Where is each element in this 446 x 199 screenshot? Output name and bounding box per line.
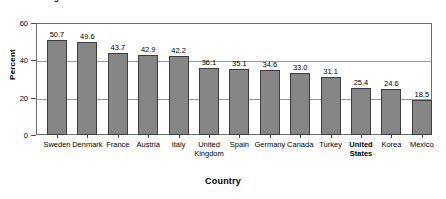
x-axis-title: Country bbox=[0, 176, 446, 186]
bar[interactable]: 24.6 bbox=[376, 23, 406, 135]
bar-value-label: 24.6 bbox=[376, 79, 406, 88]
bar[interactable]: 35.1 bbox=[224, 23, 254, 135]
x-tick-mark bbox=[209, 135, 210, 138]
x-axis-labels: SwedenDenmarkFranceAustriaItalyUnited Ki… bbox=[36, 140, 432, 170]
bar[interactable]: 49.6 bbox=[72, 23, 102, 135]
x-tick-mark bbox=[300, 135, 301, 138]
bar-value-label: 31.1 bbox=[316, 67, 346, 76]
bar[interactable]: 50.7 bbox=[42, 23, 72, 135]
bar[interactable]: 42.9 bbox=[133, 23, 163, 135]
bar-rect bbox=[169, 56, 189, 135]
bar-rect bbox=[138, 55, 158, 135]
bar-value-label: 18.5 bbox=[407, 90, 437, 99]
x-tick-mark bbox=[179, 135, 180, 138]
bar-rect bbox=[321, 77, 341, 135]
bar[interactable]: 18.5 bbox=[407, 23, 437, 135]
y-tick-label: 40 bbox=[0, 56, 28, 65]
x-tick-mark bbox=[87, 135, 88, 138]
bar-rect bbox=[77, 42, 97, 135]
bar-value-label: 49.6 bbox=[72, 32, 102, 41]
x-axis-ticks bbox=[36, 135, 432, 139]
x-tick-mark bbox=[422, 135, 423, 138]
bar-value-label: 33.0 bbox=[285, 63, 315, 72]
x-tick-mark bbox=[239, 135, 240, 138]
bar-rect bbox=[229, 69, 249, 135]
bar-rect bbox=[199, 68, 219, 135]
bar-value-label: 36.1 bbox=[194, 58, 224, 67]
x-tick-mark bbox=[331, 135, 332, 138]
bar-rect bbox=[381, 89, 401, 135]
bar-value-label: 25.4 bbox=[346, 78, 376, 87]
bar-value-label: 42.9 bbox=[133, 45, 163, 54]
y-tick-label: 0 bbox=[0, 131, 28, 140]
bar-value-label: 50.7 bbox=[42, 30, 72, 39]
x-tick-label: Mexico bbox=[400, 140, 444, 149]
bar-rect bbox=[108, 53, 128, 135]
bar-value-label: 34.6 bbox=[255, 60, 285, 69]
x-tick-mark bbox=[361, 135, 362, 138]
y-tick-label: 20 bbox=[0, 94, 28, 103]
bar-rect bbox=[47, 40, 67, 135]
x-tick-mark bbox=[57, 135, 58, 138]
bar-rect bbox=[412, 100, 432, 135]
bar-rect bbox=[260, 70, 280, 135]
bar[interactable]: 34.6 bbox=[255, 23, 285, 135]
figure-title: Figure 12-1. Tax Revenue as a Percent of… bbox=[46, 0, 236, 2]
bar[interactable]: 43.7 bbox=[103, 23, 133, 135]
bar-rect bbox=[290, 73, 310, 135]
bar-value-label: 42.2 bbox=[164, 46, 194, 55]
bar[interactable]: 31.1 bbox=[316, 23, 346, 135]
bar-value-label: 35.1 bbox=[224, 59, 254, 68]
x-tick-mark bbox=[270, 135, 271, 138]
bar[interactable]: 25.4 bbox=[346, 23, 376, 135]
bars-layer: 50.749.643.742.942.236.135.134.633.031.1… bbox=[36, 23, 432, 135]
y-tick-label: 60 bbox=[0, 19, 28, 28]
bar[interactable]: 36.1 bbox=[194, 23, 224, 135]
x-tick-mark bbox=[148, 135, 149, 138]
x-tick-mark bbox=[391, 135, 392, 138]
bar[interactable]: 42.2 bbox=[164, 23, 194, 135]
x-tick-mark bbox=[118, 135, 119, 138]
bar[interactable]: 33.0 bbox=[285, 23, 315, 135]
bar-value-label: 43.7 bbox=[103, 43, 133, 52]
bar-rect bbox=[351, 88, 371, 135]
